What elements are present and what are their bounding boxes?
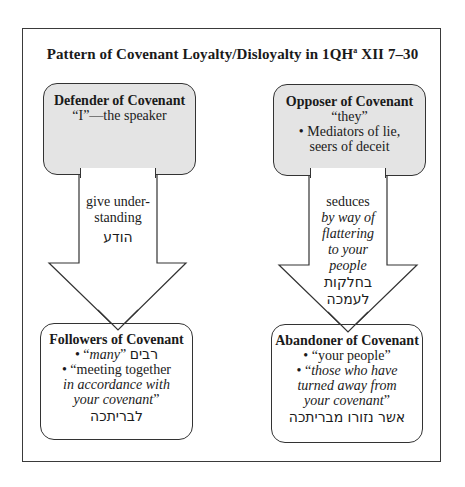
right-arrow-line-5: people	[300, 258, 396, 274]
followers-item-meeting-3: your covenant”	[41, 392, 192, 407]
followers-box: Followers of Covenant • “many” רבים • “m…	[40, 323, 193, 440]
defender-heading: Defender of Covenant	[44, 93, 195, 108]
left-arrow-label: give under- standing הודע	[80, 194, 156, 246]
right-arrow-hebrew-1: בחלקות	[300, 274, 396, 291]
rabbim-hebrew: רבים	[130, 346, 158, 362]
right-arrow-shaft-cover	[310, 168, 386, 178]
followers-item-meeting-1: • “meeting together	[41, 362, 192, 377]
your-covenant-italic: your covenant	[304, 393, 384, 408]
defender-line: “I”—the speaker	[44, 108, 195, 123]
quote-close: ”	[153, 392, 159, 407]
opposer-heading: Opposer of Covenant	[274, 94, 425, 109]
opposer-line-3: seers of deceit	[274, 139, 425, 154]
defender-box: Defender of Covenant “I”—the speaker	[43, 83, 196, 175]
those-who-have-italic: those who have	[311, 363, 397, 378]
right-arrow-label: seduces by way of flattering to your peo…	[300, 194, 396, 308]
bullet: • “	[297, 363, 312, 378]
abandoner-item-turned-1: • “those who have	[272, 363, 422, 378]
bullet: • “	[75, 347, 90, 362]
followers-hebrew: לבריתכה	[41, 408, 192, 425]
followers-item-many: • “many” רבים	[41, 347, 192, 362]
right-arrow-hebrew-2: לעמכה	[300, 291, 396, 308]
opposer-box: Opposer of Covenant “they” • Mediators o…	[273, 84, 426, 176]
abandoner-box: Abandoner of Covenant • “your people” • …	[271, 324, 423, 443]
right-arrow-line-3: flattering	[300, 226, 396, 242]
abandoner-hebrew: אשר נזורו מבריתכה	[272, 409, 422, 426]
right-arrow-line-1: seduces	[300, 194, 396, 210]
left-arrow-line-2: standing	[80, 210, 156, 226]
followers-heading: Followers of Covenant	[41, 332, 192, 347]
followers-item-meeting-2: in accordance with	[41, 377, 192, 392]
abandoner-item-your-people: • “your people”	[272, 348, 422, 363]
left-arrow-hebrew: הודע	[80, 229, 156, 246]
abandoner-item-turned-3: your covenant”	[272, 393, 422, 408]
left-arrow-shaft-cover	[80, 168, 156, 178]
right-arrow-line-2: by way of	[300, 210, 396, 226]
many-italic: many	[90, 347, 120, 362]
opposer-line-1: “they”	[274, 109, 425, 124]
right-arrow-line-4: to your	[300, 242, 396, 258]
quote-close: ”	[384, 393, 390, 408]
opposer-line-2: • Mediators of lie,	[274, 124, 425, 139]
abandoner-item-turned-2: turned away from	[272, 378, 422, 393]
left-arrow-line-1: give under-	[80, 194, 156, 210]
your-covenant-italic: your covenant	[74, 392, 154, 407]
abandoner-heading: Abandoner of Covenant	[272, 333, 422, 348]
quote-close: ”	[120, 347, 130, 362]
